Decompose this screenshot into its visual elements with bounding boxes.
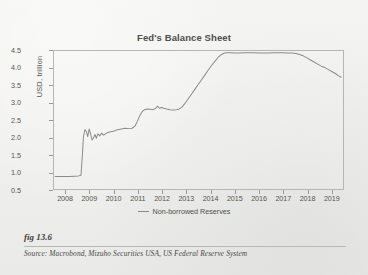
y-tick-mark (49, 190, 53, 191)
chart-figure: Fed's Balance Sheet USD, trillion 0.51.0… (16, 14, 352, 260)
y-tick-mark (49, 173, 53, 174)
x-tick-mark (114, 190, 115, 194)
x-tick-mark (259, 190, 260, 194)
y-tick-label: 4.0 (0, 63, 21, 72)
x-tick-mark (89, 190, 90, 194)
y-tick-mark (49, 68, 53, 69)
y-tick-label: 0.5 (0, 186, 21, 195)
figure-number: fig 13.6 (24, 232, 52, 242)
caption-divider (24, 246, 346, 247)
x-tick-mark (138, 190, 139, 194)
x-tick-mark (162, 190, 163, 194)
y-tick-label: 1.0 (0, 168, 21, 177)
y-tick-mark (49, 155, 53, 156)
y-tick-mark (49, 103, 53, 104)
y-tick-label: 2.0 (0, 133, 21, 142)
plot-frame (53, 50, 344, 190)
y-tick-mark (49, 120, 53, 121)
figure-source: Source: Macrobond, Mizuho Securities USA… (24, 249, 247, 258)
chart-legend: Non-borrowed Reserves (16, 207, 352, 216)
y-tick-label: 4.5 (0, 46, 21, 55)
x-tick-mark (283, 190, 284, 194)
x-tick-mark (211, 190, 212, 194)
x-tick-label: 2019 (317, 194, 347, 203)
legend-line-swatch (138, 211, 149, 212)
plot-area (54, 51, 343, 189)
y-tick-label: 2.5 (0, 116, 21, 125)
figure-page: Fed's Balance Sheet USD, trillion 0.51.0… (0, 0, 368, 275)
legend-label: Non-borrowed Reserves (153, 207, 231, 216)
x-tick-mark (308, 190, 309, 194)
y-tick-label: 3.0 (0, 98, 21, 107)
y-tick-mark (49, 50, 53, 51)
y-tick-label: 3.5 (0, 81, 21, 90)
y-tick-mark (49, 138, 53, 139)
x-tick-mark (65, 190, 66, 194)
y-tick-label: 1.5 (0, 151, 21, 160)
x-tick-mark (235, 190, 236, 194)
x-tick-mark (332, 190, 333, 194)
y-tick-mark (49, 85, 53, 86)
chart-title: Fed's Balance Sheet (16, 32, 352, 43)
y-axis-title: USD, trillion (35, 31, 44, 123)
x-tick-mark (186, 190, 187, 194)
series-line-non-borrowed-reserves (54, 51, 343, 189)
